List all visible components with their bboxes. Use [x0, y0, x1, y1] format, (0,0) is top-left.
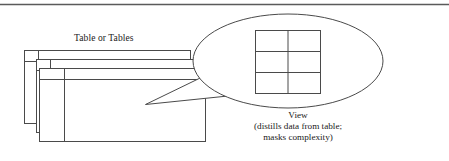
table-stack-label: Table or Tables	[74, 33, 134, 44]
diagram-canvas	[0, 0, 449, 161]
view-caption-line-2: (distills data from table;	[232, 121, 364, 132]
view-grid	[256, 31, 321, 94]
figure-container: Table or Tables View (distills data from…	[0, 0, 449, 161]
view-caption: View (distills data from table; masks co…	[232, 110, 364, 143]
table-rect-front	[40, 69, 206, 142]
view-caption-line-1: View	[232, 110, 364, 121]
view-caption-line-3: masks complexity)	[232, 132, 364, 143]
